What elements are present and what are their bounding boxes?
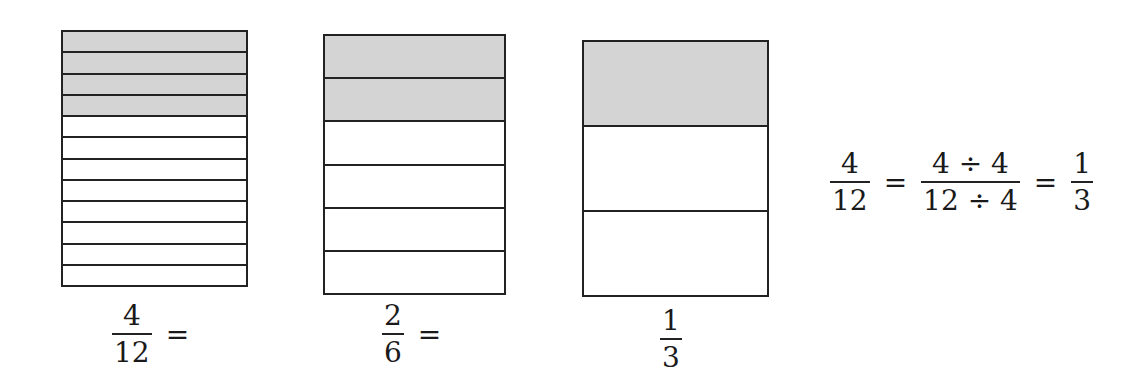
- fraction-bar-sixths: [323, 34, 506, 295]
- fraction-divided: 4 ÷ 4 12 ÷ 4: [921, 150, 1020, 215]
- equals-sign: =: [884, 169, 907, 197]
- fraction-bar-thirds: [582, 40, 769, 297]
- shaded-part: [63, 75, 246, 96]
- shaded-part: [584, 42, 767, 127]
- denominator: 12 ÷ 4: [921, 181, 1020, 215]
- unshaded-part: [584, 127, 767, 212]
- fraction-one-third: 1 3: [1071, 150, 1093, 215]
- unshaded-part: [63, 202, 246, 223]
- fraction-one-third: 1 3: [660, 307, 682, 372]
- numerator: 1: [1071, 150, 1093, 181]
- unshaded-part: [63, 181, 246, 202]
- numerator: 4: [839, 150, 861, 181]
- numerator: 4: [121, 302, 143, 333]
- label-thirds: 1 3: [660, 307, 682, 372]
- denominator: 3: [660, 338, 682, 372]
- unshaded-part: [584, 212, 767, 295]
- fraction-four-twelfths: 4 12: [112, 302, 152, 367]
- numerator: 4 ÷ 4: [930, 150, 1011, 181]
- unshaded-part: [325, 122, 504, 165]
- unshaded-part: [63, 138, 246, 159]
- fraction-two-sixths: 2 6: [382, 302, 404, 367]
- denominator: 6: [382, 333, 404, 367]
- equals-sign: =: [166, 321, 189, 349]
- unshaded-part: [63, 117, 246, 138]
- label-twelfths: 4 12 =: [112, 302, 189, 367]
- denominator: 12: [830, 181, 870, 215]
- unshaded-part: [63, 245, 246, 266]
- simplification-equation: 4 12 = 4 ÷ 4 12 ÷ 4 = 1 3: [830, 150, 1093, 215]
- unshaded-part: [325, 166, 504, 209]
- denominator: 12: [112, 333, 152, 367]
- fraction-bar-twelfths: [61, 30, 248, 287]
- unshaded-part: [63, 266, 246, 285]
- numerator: 1: [660, 307, 682, 338]
- label-sixths: 2 6 =: [382, 302, 441, 367]
- numerator: 2: [382, 302, 404, 333]
- fraction-four-twelfths: 4 12: [830, 150, 870, 215]
- equals-sign: =: [418, 321, 441, 349]
- unshaded-part: [325, 209, 504, 252]
- unshaded-part: [63, 160, 246, 181]
- equals-sign: =: [1034, 169, 1057, 197]
- shaded-part: [63, 32, 246, 53]
- shaded-part: [63, 53, 246, 74]
- unshaded-part: [63, 223, 246, 244]
- denominator: 3: [1071, 181, 1093, 215]
- shaded-part: [325, 36, 504, 79]
- shaded-part: [63, 96, 246, 117]
- unshaded-part: [325, 252, 504, 293]
- shaded-part: [325, 79, 504, 122]
